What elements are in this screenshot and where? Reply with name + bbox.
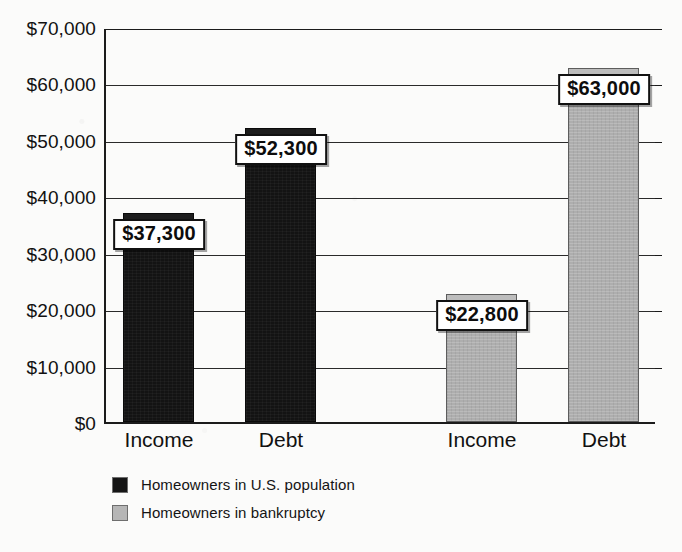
value-label-income-bankruptcy: $22,800 <box>436 300 528 331</box>
plot-area: $37,300 $52,300 $22,800 $63,000 <box>104 29 655 424</box>
value-label-debt-bankruptcy: $63,000 <box>558 74 650 105</box>
value-label-income-us-population: $37,300 <box>113 219 205 250</box>
gridline-70000 <box>104 29 655 30</box>
y-tick-label-50000: $50,000 <box>0 131 96 153</box>
dark-square-icon <box>112 477 128 493</box>
tick-right-60000 <box>655 85 662 86</box>
bar-body <box>568 74 639 422</box>
bar-chart-figure: $70,000 $60,000 $50,000 $40,000 $30,000 … <box>0 0 682 552</box>
y-axis-line <box>104 29 106 424</box>
y-tick-label-20000: $20,000 <box>0 300 96 322</box>
y-tick-label-0: $0 <box>0 413 96 435</box>
bar-debt-us-population[interactable] <box>245 128 316 422</box>
bar-debt-bankruptcy[interactable] <box>568 68 639 422</box>
legend-label-us-population: Homeowners in U.S. population <box>141 476 355 493</box>
tick-right-70000 <box>655 29 662 30</box>
x-tick-label-income-1: Income <box>125 428 194 452</box>
tick-right-40000 <box>655 198 662 199</box>
x-tick-label-debt-2: Debt <box>582 428 626 452</box>
tick-right-10000 <box>655 368 662 369</box>
bar-body <box>245 134 316 422</box>
y-tick-label-60000: $60,000 <box>0 74 96 96</box>
y-tick-label-30000: $30,000 <box>0 244 96 266</box>
light-square-icon <box>112 505 128 521</box>
legend-label-bankruptcy: Homeowners in bankruptcy <box>141 504 325 521</box>
x-tick-label-income-2: Income <box>448 428 517 452</box>
y-tick-label-40000: $40,000 <box>0 187 96 209</box>
chart-legend: Homeowners in U.S. population Homeowners… <box>112 472 532 528</box>
tick-right-50000 <box>655 142 662 143</box>
y-tick-label-10000: $10,000 <box>0 357 96 379</box>
y-tick-label-70000: $70,000 <box>0 18 96 40</box>
legend-item-bankruptcy[interactable]: Homeowners in bankruptcy <box>112 500 532 525</box>
tick-right-20000 <box>655 311 662 312</box>
legend-item-us-population[interactable]: Homeowners in U.S. population <box>112 472 532 497</box>
x-axis-line <box>104 422 655 424</box>
tick-right-30000 <box>655 255 662 256</box>
x-axis-labels: Income Debt Income Debt <box>104 428 655 462</box>
value-label-debt-us-population: $52,300 <box>235 134 327 165</box>
y-axis-labels: $70,000 $60,000 $50,000 $40,000 $30,000 … <box>0 0 96 552</box>
x-tick-label-debt-1: Debt <box>259 428 303 452</box>
